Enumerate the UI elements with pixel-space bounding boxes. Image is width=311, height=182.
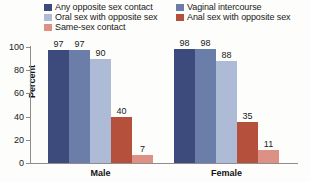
legend-item-same-sex-contact: Same-sex contact — [44, 22, 125, 32]
bar-value-label: 97 — [53, 39, 63, 49]
bar-value-label: 90 — [95, 48, 105, 58]
plot-area: Percent 020406080100 9797904079898883511… — [30, 46, 298, 164]
bar-value-label: 88 — [221, 50, 231, 60]
bar-value-label: 11 — [264, 139, 273, 149]
bar: 40 — [111, 117, 132, 163]
y-tick-mark — [26, 140, 30, 141]
legend-item-anal-sex-with-opposite-sex: Anal sex with opposite sex — [176, 12, 290, 22]
bar: 98 — [195, 49, 216, 163]
y-axis-line — [30, 46, 31, 164]
bar: 90 — [90, 59, 111, 163]
legend-item-label: Anal sex with opposite sex — [187, 12, 290, 22]
legend-swatch-icon — [44, 4, 52, 11]
bar: 35 — [237, 122, 258, 163]
bar: 88 — [216, 61, 237, 163]
bar-value-label: 98 — [200, 38, 210, 48]
legend-item-label: Vaginal intercourse — [187, 2, 261, 12]
legend-swatch-icon — [176, 14, 184, 21]
y-tick-mark — [26, 93, 30, 94]
legend-swatch-icon — [44, 24, 52, 31]
x-axis-line — [30, 163, 298, 164]
bar: 7 — [132, 155, 153, 163]
legend-item-any-opposite-sex-contact: Any opposite sex contact — [44, 2, 153, 12]
bar: 11 — [258, 150, 279, 163]
bar: 98 — [174, 49, 195, 163]
legend-item-oral-sex-with-opposite-sex: Oral sex with opposite sex — [44, 12, 157, 22]
y-tick-mark — [26, 47, 30, 48]
bar-value-label: 7 — [140, 144, 145, 154]
legend-item-vaginal-intercourse: Vaginal intercourse — [176, 2, 261, 12]
y-tick-label: 100 — [9, 42, 24, 52]
y-tick-mark — [26, 163, 30, 164]
legend-item-label: Oral sex with opposite sex — [55, 12, 157, 22]
y-tick-label: 40 — [14, 112, 24, 122]
bar: 97 — [48, 50, 69, 163]
legend-item-label: Same-sex contact — [55, 22, 125, 32]
y-tick-mark — [26, 117, 30, 118]
bar-value-label: 98 — [179, 38, 189, 48]
legend-swatch-icon — [176, 4, 184, 11]
bar-value-label: 40 — [116, 106, 126, 116]
group-label: Female — [211, 168, 242, 178]
legend-item-label: Any opposite sex contact — [55, 2, 153, 12]
y-tick-label: 0 — [19, 158, 24, 168]
bar-value-label: 97 — [74, 39, 84, 49]
chart-figure: Any opposite sex contact Oral sex with o… — [0, 0, 311, 182]
y-tick-label: 60 — [14, 88, 24, 98]
y-tick-label: 80 — [14, 65, 24, 75]
bar: 97 — [69, 50, 90, 163]
y-tick-mark — [26, 70, 30, 71]
bar-value-label: 35 — [242, 111, 252, 121]
y-tick-label: 20 — [14, 135, 24, 145]
legend-swatch-icon — [44, 14, 52, 21]
chart-legend: Any opposite sex contact Oral sex with o… — [0, 0, 311, 36]
group-label: Male — [90, 168, 110, 178]
